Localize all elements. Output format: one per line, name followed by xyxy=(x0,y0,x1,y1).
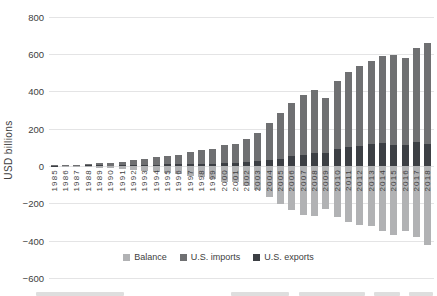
exports-bar-2012 xyxy=(356,146,363,167)
x-tick-label-1987: 1987 xyxy=(72,169,81,192)
legend-swatch-icon xyxy=(180,254,187,261)
imports-bar-1994 xyxy=(153,157,160,164)
x-tick-label-2005: 2005 xyxy=(276,169,285,192)
imports-bar-2012 xyxy=(356,66,363,145)
x-tick-label-1997: 1997 xyxy=(186,169,195,192)
x-tick-label-2001: 2001 xyxy=(231,169,240,192)
exports-bar-2013 xyxy=(368,144,375,167)
imports-bar-2017 xyxy=(413,48,420,142)
x-tick-label-2006: 2006 xyxy=(287,169,296,192)
exports-bar-2005 xyxy=(277,159,284,167)
x-tick-label-1995: 1995 xyxy=(163,169,172,192)
gridline--400 xyxy=(49,241,434,242)
imports-bar-2014 xyxy=(379,56,386,144)
imports-bar-2002 xyxy=(243,139,250,162)
exports-bar-2017 xyxy=(413,142,420,166)
x-tick-label-2004: 2004 xyxy=(265,169,274,192)
x-tick-label-2000: 2000 xyxy=(220,169,229,192)
caption-dash xyxy=(231,292,289,296)
y-axis-tick-labels: 8006004002000−200−400−600 xyxy=(0,17,44,279)
chart-figure: USD billions 8006004002000−200−400−600 1… xyxy=(0,0,437,296)
exports-bar-2018 xyxy=(424,144,431,166)
legend-item-u-s-imports: U.S. imports xyxy=(180,252,241,262)
y-tick-label-0: 0 xyxy=(0,161,44,172)
imports-bar-1997 xyxy=(187,152,194,164)
imports-bar-2009 xyxy=(322,98,329,153)
x-tick-label-2013: 2013 xyxy=(367,169,376,192)
exports-bar-2008 xyxy=(311,153,318,166)
imports-bar-2016 xyxy=(402,58,409,144)
x-tick-label-1985: 1985 xyxy=(50,169,59,192)
balance-bar-1988 xyxy=(85,166,92,167)
y-tick-label--600: −600 xyxy=(0,273,44,284)
legend-item-balance: Balance xyxy=(123,252,167,262)
imports-bar-2018 xyxy=(424,43,431,144)
x-tick-label-2010: 2010 xyxy=(333,169,342,192)
legend-label: Balance xyxy=(134,252,167,262)
chart-legend: BalanceU.S. importsU.S. exports xyxy=(0,250,437,264)
legend-item-u-s-exports: U.S. exports xyxy=(253,252,314,262)
exports-bar-2016 xyxy=(402,145,409,167)
x-tick-label-1998: 1998 xyxy=(197,169,206,192)
imports-bar-2005 xyxy=(277,113,284,158)
imports-bar-2000 xyxy=(221,145,228,164)
imports-bar-2001 xyxy=(232,144,239,163)
x-tick-label-2008: 2008 xyxy=(310,169,319,192)
exports-bar-2014 xyxy=(379,143,386,166)
imports-bar-2004 xyxy=(266,123,273,160)
imports-bar-1995 xyxy=(164,156,171,165)
imports-bar-2015 xyxy=(390,55,397,145)
imports-bar-2013 xyxy=(368,61,375,143)
x-tick-label-2012: 2012 xyxy=(355,169,364,192)
gridline-800 xyxy=(49,17,434,18)
gridline-200 xyxy=(49,129,434,130)
imports-bar-1998 xyxy=(198,150,205,163)
x-tick-label-2003: 2003 xyxy=(253,169,262,192)
imports-bar-2010 xyxy=(334,81,341,149)
legend-label: U.S. exports xyxy=(264,252,314,262)
y-tick-label-600: 600 xyxy=(0,49,44,60)
legend-label: U.S. imports xyxy=(191,252,241,262)
x-tick-label-2002: 2002 xyxy=(242,169,251,192)
exports-bar-2006 xyxy=(288,156,295,166)
imports-bar-2011 xyxy=(345,72,352,147)
x-tick-label-1999: 1999 xyxy=(208,169,217,192)
x-tick-label-1994: 1994 xyxy=(152,169,161,192)
cropped-caption-fragment xyxy=(0,290,437,296)
imports-bar-2008 xyxy=(311,90,318,153)
x-tick-label-1988: 1988 xyxy=(84,169,93,192)
x-tick-label-1992: 1992 xyxy=(129,169,138,192)
exports-bar-2009 xyxy=(322,153,329,166)
x-tick-label-1989: 1989 xyxy=(95,169,104,192)
imports-bar-1996 xyxy=(175,155,182,165)
gridline-600 xyxy=(49,54,434,55)
x-tick-label-2018: 2018 xyxy=(423,169,432,192)
caption-dash xyxy=(299,292,365,296)
y-tick-label-800: 800 xyxy=(0,12,44,23)
balance-bar-1989 xyxy=(96,166,103,167)
x-tick-label-2017: 2017 xyxy=(412,169,421,192)
caption-dash xyxy=(36,292,124,296)
gridline-0 xyxy=(49,166,434,167)
legend-swatch-icon xyxy=(123,254,130,261)
gridline--200 xyxy=(49,203,434,204)
imports-bar-2006 xyxy=(288,103,295,157)
x-tick-label-1991: 1991 xyxy=(118,169,127,192)
gridline-400 xyxy=(49,91,434,92)
plot-area: 1985198619871988198919901991199219931994… xyxy=(49,17,434,279)
caption-dash xyxy=(409,292,433,296)
y-tick-label--200: −200 xyxy=(0,198,44,209)
caption-dash xyxy=(374,292,400,296)
x-tick-label-2007: 2007 xyxy=(299,169,308,192)
x-tick-label-1986: 1986 xyxy=(61,169,70,192)
x-tick-label-1993: 1993 xyxy=(140,169,149,192)
imports-bar-1999 xyxy=(209,149,216,164)
x-tick-label-2014: 2014 xyxy=(378,169,387,192)
y-tick-label--400: −400 xyxy=(0,236,44,247)
y-tick-label-400: 400 xyxy=(0,86,44,97)
exports-bar-1985 xyxy=(51,166,58,167)
gridline--600 xyxy=(49,278,434,279)
exports-bar-2010 xyxy=(334,149,341,166)
legend-swatch-icon xyxy=(253,254,260,261)
balance-bar-1987 xyxy=(73,166,80,167)
